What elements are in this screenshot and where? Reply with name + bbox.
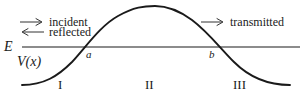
potential-barrier-figure: E V(x) a b I II III incident reflected — [0, 0, 306, 98]
turning-point-b-label: b — [209, 49, 215, 60]
potential-function-label: V(x) — [17, 55, 41, 69]
region-2-label: II — [145, 78, 154, 91]
turning-point-a-label: a — [86, 49, 92, 60]
transmitted-wave-label: transmitted — [230, 16, 284, 28]
reflected-wave-annotation: reflected — [20, 26, 91, 38]
arrow-right-icon — [201, 17, 225, 27]
region-3-label: III — [233, 78, 246, 91]
arrow-left-icon — [20, 27, 44, 37]
transmitted-wave-annotation: transmitted — [201, 16, 284, 28]
reflected-wave-label: reflected — [49, 26, 91, 38]
region-1-label: I — [58, 78, 62, 91]
energy-level-label: E — [4, 40, 13, 54]
